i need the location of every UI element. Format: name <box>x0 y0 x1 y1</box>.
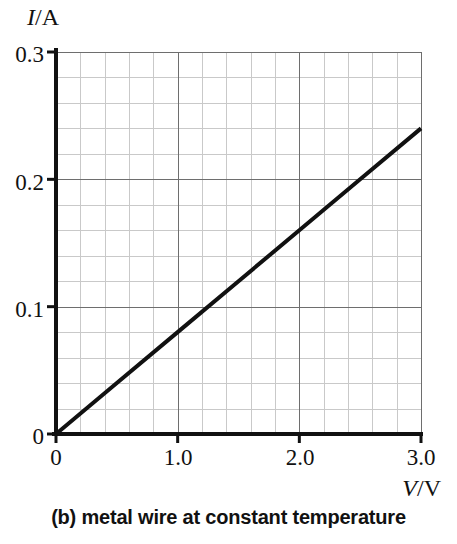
figure-caption: (b) metal wire at constant temperature <box>0 506 457 529</box>
figure-container: I/A 0.3 0.2 0.1 0 0 1.0 2.0 3.0 V/V (b) … <box>0 0 457 544</box>
plot-area <box>0 0 457 544</box>
axis-tick-marks <box>47 52 421 443</box>
minor-gridlines <box>56 52 421 434</box>
major-gridlines <box>56 52 422 435</box>
plot-frame <box>56 52 422 434</box>
axis-lines <box>54 50 421 434</box>
